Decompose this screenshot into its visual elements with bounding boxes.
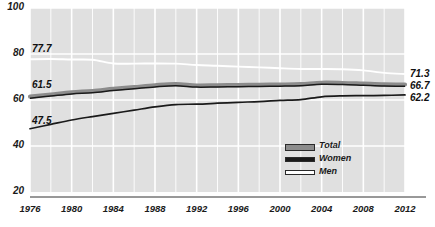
- y-tick-40: 40: [0, 139, 24, 150]
- y-tick-60: 60: [0, 93, 24, 104]
- women-start-value: 47.5: [32, 115, 51, 126]
- x-tick-2008: 2008: [343, 203, 383, 214]
- chart-canvas: [0, 0, 435, 227]
- x-tick-1992: 1992: [177, 203, 217, 214]
- women-end-value: 62.2: [410, 92, 429, 103]
- total-end-value: 66.7: [410, 80, 429, 91]
- line-chart: 20406080100 1976198019841988199219962000…: [0, 0, 435, 227]
- y-tick-20: 20: [0, 185, 24, 196]
- y-tick-80: 80: [0, 47, 24, 58]
- legend-swatch-women: [285, 157, 315, 162]
- x-tick-1976: 1976: [10, 203, 50, 214]
- x-tick-2004: 2004: [302, 203, 342, 214]
- total-start-value: 61.5: [32, 79, 51, 90]
- legend-label-total: Total: [319, 140, 340, 150]
- legend-label-men: Men: [319, 166, 337, 176]
- y-tick-100: 100: [0, 1, 24, 12]
- x-tick-1996: 1996: [218, 203, 258, 214]
- x-tick-1988: 1988: [135, 203, 175, 214]
- legend-swatch-men: [285, 170, 315, 175]
- x-tick-2000: 2000: [260, 203, 300, 214]
- x-tick-1980: 1980: [52, 203, 92, 214]
- x-tick-2012: 2012: [385, 203, 425, 214]
- legend-swatch-total: [285, 144, 315, 151]
- legend-label-women: Women: [319, 153, 351, 163]
- men-end-value: 71.3: [410, 68, 429, 79]
- x-tick-1984: 1984: [93, 203, 133, 214]
- men-start-value: 77.7: [32, 43, 51, 54]
